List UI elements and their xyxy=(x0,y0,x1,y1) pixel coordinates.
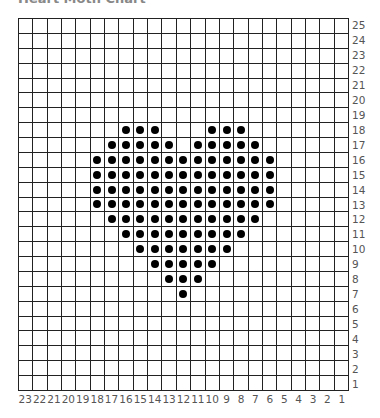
grid-cell xyxy=(91,331,105,346)
row-label: 10 xyxy=(352,242,365,257)
grid-cell xyxy=(292,34,306,49)
grid-cell xyxy=(277,123,291,138)
grid-cell xyxy=(76,272,90,287)
grid-cell xyxy=(33,198,47,213)
grid-cell xyxy=(320,123,334,138)
grid-cell xyxy=(177,287,191,302)
grid-cell xyxy=(19,361,33,376)
grid-cell xyxy=(277,19,291,34)
grid-cell xyxy=(277,49,291,64)
grid-cell xyxy=(220,168,234,183)
grid-cell xyxy=(263,257,277,272)
grid-cell xyxy=(162,93,176,108)
grid-cell xyxy=(62,361,76,376)
grid-cell xyxy=(292,198,306,213)
grid-cell xyxy=(206,257,220,272)
grid-cell xyxy=(206,198,220,213)
row-label: 24 xyxy=(352,33,365,48)
stitch-dot xyxy=(165,275,173,283)
grid-cell xyxy=(162,64,176,79)
stitch-dot xyxy=(194,230,202,238)
grid-cell xyxy=(306,272,320,287)
grid-cell xyxy=(249,361,263,376)
grid-cell xyxy=(134,93,148,108)
grid-cell xyxy=(134,212,148,227)
stitch-dot xyxy=(208,141,216,149)
stitch-dot xyxy=(266,200,274,208)
grid-cell xyxy=(105,93,119,108)
grid-cell xyxy=(48,198,62,213)
grid-cell xyxy=(191,138,205,153)
grid-cell xyxy=(263,227,277,242)
grid-cell xyxy=(62,93,76,108)
row-label: 7 xyxy=(352,287,365,302)
grid-cell xyxy=(162,361,176,376)
row-label: 12 xyxy=(352,212,365,227)
grid-cell xyxy=(263,346,277,361)
grid-cell xyxy=(206,376,220,391)
grid-cell xyxy=(177,317,191,332)
grid-cell xyxy=(162,183,176,198)
grid-cell xyxy=(33,183,47,198)
grid-cell xyxy=(335,331,349,346)
grid-cell xyxy=(76,287,90,302)
grid-cell xyxy=(292,257,306,272)
stitch-dot xyxy=(237,230,245,238)
grid-cell xyxy=(91,183,105,198)
grid-cell xyxy=(234,153,248,168)
grid-cell xyxy=(335,302,349,317)
grid-cell xyxy=(191,93,205,108)
grid-cell xyxy=(249,153,263,168)
grid-cell xyxy=(177,183,191,198)
grid-cell xyxy=(162,123,176,138)
grid-cell xyxy=(48,168,62,183)
stitch-dot xyxy=(151,245,159,253)
stitch-dot xyxy=(194,260,202,268)
grid-cell xyxy=(263,212,277,227)
grid-cell xyxy=(33,168,47,183)
grid-cell xyxy=(62,272,76,287)
stitch-dot xyxy=(93,200,101,208)
stitch-dot xyxy=(179,156,187,164)
grid-cell xyxy=(105,302,119,317)
grid-cell xyxy=(119,361,133,376)
grid-cell xyxy=(234,123,248,138)
row-label: 17 xyxy=(352,137,365,152)
grid-cell xyxy=(76,331,90,346)
row-label: 8 xyxy=(352,272,365,287)
stitch-dot xyxy=(165,200,173,208)
grid-cell xyxy=(306,153,320,168)
grid-cell xyxy=(91,212,105,227)
grid-cell xyxy=(191,331,205,346)
grid-cell xyxy=(277,34,291,49)
row-label: 9 xyxy=(352,257,365,272)
grid-cell xyxy=(277,376,291,391)
grid-cell xyxy=(292,376,306,391)
grid-cell xyxy=(220,346,234,361)
grid-cell xyxy=(277,317,291,332)
grid-cell xyxy=(320,93,334,108)
grid-cell xyxy=(148,93,162,108)
grid-cell xyxy=(206,49,220,64)
grid-cell xyxy=(19,79,33,94)
grid-cell xyxy=(134,346,148,361)
grid-cell xyxy=(206,64,220,79)
grid-cell xyxy=(76,376,90,391)
grid-cell xyxy=(306,227,320,242)
grid-cell xyxy=(320,212,334,227)
stitch-dot xyxy=(151,230,159,238)
grid-cell xyxy=(33,242,47,257)
grid-cell xyxy=(206,272,220,287)
grid-cell xyxy=(105,331,119,346)
grid-cell xyxy=(48,287,62,302)
grid-cell xyxy=(148,19,162,34)
grid-cell xyxy=(177,212,191,227)
grid-cell xyxy=(263,34,277,49)
grid-cell xyxy=(119,93,133,108)
grid-cell xyxy=(62,331,76,346)
grid-cell xyxy=(335,123,349,138)
stitch-dot xyxy=(179,200,187,208)
grid-cell xyxy=(234,34,248,49)
grid-cell xyxy=(148,79,162,94)
grid-cell xyxy=(91,93,105,108)
